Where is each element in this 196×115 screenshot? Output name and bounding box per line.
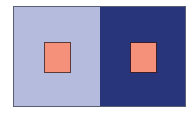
salmon-square-left bbox=[44, 42, 71, 73]
salmon-square-right bbox=[130, 42, 157, 73]
dark-background-panel bbox=[100, 7, 185, 106]
light-background-panel bbox=[14, 7, 100, 106]
contrast-figure bbox=[13, 6, 186, 107]
